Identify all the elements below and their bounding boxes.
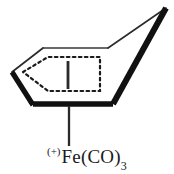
ring-edge-left-lower (12, 72, 33, 105)
carbonyl-count-subscript: 3 (121, 159, 127, 173)
positive-charge-superscript: (+) (47, 145, 61, 157)
ring-edge-apex-to-bottom-right (113, 8, 166, 104)
metal-fragment-label: (+)Fe(CO)3 (0, 147, 174, 170)
dotted-delocalization-outline (23, 57, 100, 91)
chemical-structure-figure: (+)Fe(CO)3 (0, 0, 174, 174)
iron-carbonyl-formula: Fe(CO) (62, 146, 121, 167)
